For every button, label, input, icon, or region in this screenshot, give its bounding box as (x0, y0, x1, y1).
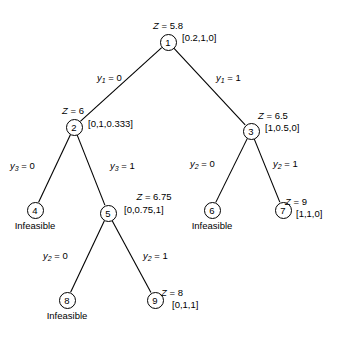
tree-edge (174, 48, 245, 125)
node-objective-9: Z = 8 (161, 287, 183, 298)
node-solution-3: [1,0.5,0] (265, 122, 299, 133)
node-solution-1: [0.2,1,0] (182, 32, 216, 43)
tree-edge (216, 139, 247, 203)
node-status-4: Infeasible (15, 220, 56, 231)
edge-label-2-4: y3 = 0 (10, 160, 35, 172)
tree-node-4[interactable]: 4 (27, 202, 44, 219)
tree-node-3[interactable]: 3 (243, 123, 260, 140)
node-objective-1: Z = 5.8 (153, 20, 183, 31)
tree-edge (77, 135, 105, 205)
tree-edge (80, 48, 161, 122)
edge-label-1-3: y1 = 1 (216, 72, 241, 84)
tree-node-5[interactable]: 5 (100, 205, 117, 222)
node-objective-5: Z = 6.75 (136, 191, 171, 202)
node-status-6: Infeasible (192, 220, 233, 231)
node-objective-2: Z = 6 (62, 105, 84, 116)
node-solution-5: [0,0.75,1] (124, 204, 164, 215)
tree-node-2[interactable]: 2 (66, 119, 83, 136)
node-solution-2: [0,1,0.333] (88, 118, 133, 129)
node-solution-7: [1,1,0] (296, 208, 322, 219)
node-solution-9: [0,1,1] (172, 299, 198, 310)
edge-label-5-8: y2 = 0 (43, 250, 68, 262)
edge-label-3-7: y2 = 1 (273, 158, 298, 170)
tree-node-8[interactable]: 8 (59, 292, 76, 309)
node-objective-7: Z = 9 (285, 196, 307, 207)
edge-label-5-9: y2 = 1 (143, 250, 168, 262)
node-status-8: Infeasible (47, 310, 88, 321)
tree-node-6[interactable]: 6 (204, 202, 221, 219)
tree-edge (254, 139, 280, 202)
tree-edge (71, 221, 105, 293)
edge-label-3-6: y2 = 0 (190, 158, 215, 170)
node-objective-3: Z = 6.5 (258, 110, 288, 121)
tree-node-1[interactable]: 1 (160, 34, 177, 51)
branch-and-bound-diagram: y1 = 0y1 = 1y3 = 0y3 = 1y2 = 0y2 = 1y2 =… (0, 0, 346, 337)
tree-edge (39, 135, 71, 203)
edge-label-1-2: y1 = 0 (97, 72, 122, 84)
edge-label-2-5: y3 = 1 (110, 160, 135, 172)
